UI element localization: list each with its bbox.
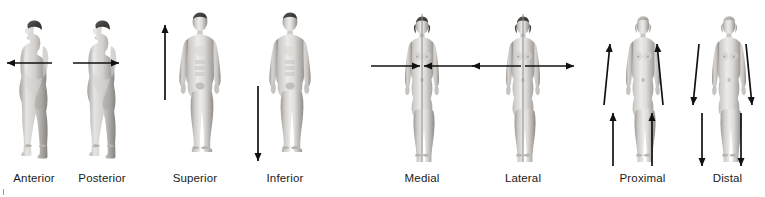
panel-medial: Medial [378, 0, 466, 197]
panel-anterior: Anterior [0, 0, 68, 197]
female-anterior-full-silhouette [618, 10, 668, 162]
label-medial: Medial [378, 172, 466, 184]
label-proximal: Proximal [600, 172, 685, 184]
figure-inferior-body [261, 8, 319, 163]
figure-superior-body [171, 8, 229, 163]
label-distal: Distal [690, 172, 765, 184]
male-anterior-full-silhouette [171, 8, 229, 163]
label-superior: Superior [150, 172, 240, 184]
corner-tick-artifact [3, 189, 4, 195]
male-lateral-profile-silhouette [14, 10, 58, 162]
figure-distal-body [704, 10, 754, 162]
panel-superior: Superior [150, 0, 240, 197]
label-posterior: Posterior [68, 172, 136, 184]
panel-proximal: Proximal [600, 0, 685, 197]
panel-inferior: Inferior [240, 0, 330, 197]
male-anterior-full-silhouette [261, 8, 319, 163]
label-inferior: Inferior [240, 172, 330, 184]
figure-anterior-body [14, 10, 58, 162]
panel-lateral: Lateral [479, 0, 567, 197]
figure-proximal-body [618, 10, 668, 162]
female-anterior-full-silhouette [397, 10, 447, 162]
female-anterior-full-silhouette [498, 10, 548, 162]
panel-distal: Distal [690, 0, 765, 197]
figure-posterior-body [82, 10, 126, 162]
female-anterior-full-silhouette [704, 10, 754, 162]
panel-posterior: Posterior [68, 0, 136, 197]
label-lateral: Lateral [479, 172, 567, 184]
label-anterior: Anterior [0, 172, 68, 184]
figure-medial-body [397, 10, 447, 162]
figure-lateral-body [498, 10, 548, 162]
anatomical-directional-terms-diagram: Anterior Posterior [0, 0, 765, 197]
male-lateral-profile-silhouette [82, 10, 126, 162]
